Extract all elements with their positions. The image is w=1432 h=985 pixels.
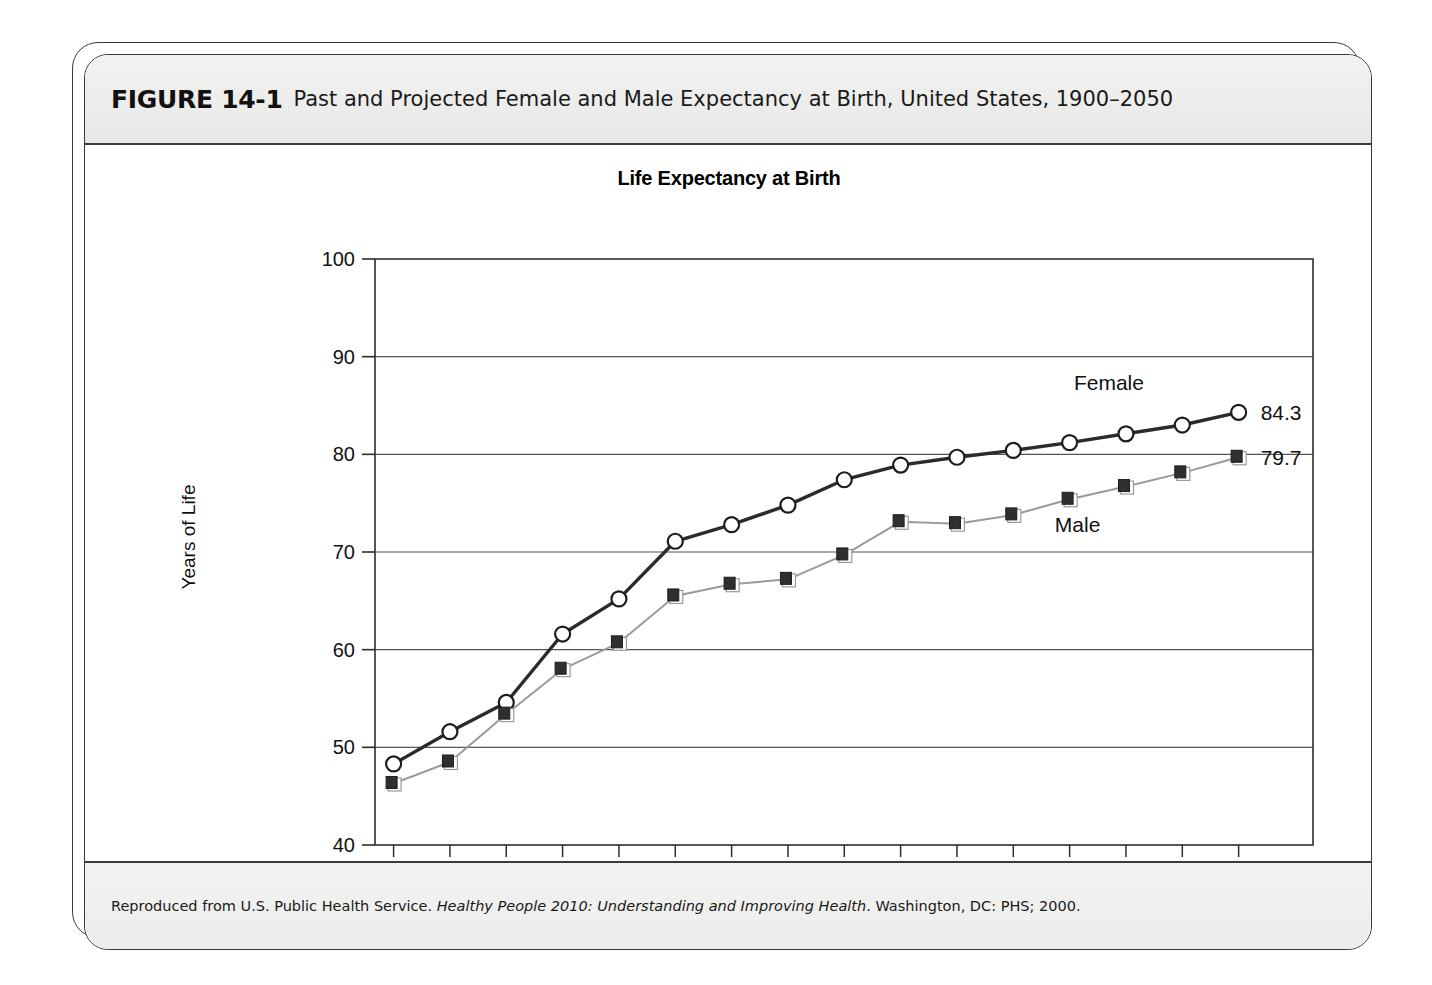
source-title: Healthy People 2010: Understanding and I… [437, 898, 867, 914]
data-point-female [668, 534, 683, 549]
data-point-male [1118, 480, 1129, 492]
data-point-male [555, 662, 566, 674]
y-tick-label: 60 [333, 639, 355, 661]
data-point-male [780, 572, 791, 584]
data-point-male [499, 707, 510, 719]
figure-caption: Past and Projected Female and Male Expec… [294, 87, 1174, 111]
data-point-female [386, 756, 401, 771]
data-point-male [1175, 466, 1186, 478]
data-point-female [780, 498, 795, 513]
data-point-female [1118, 426, 1133, 441]
data-point-male [1006, 508, 1017, 520]
figure-card: FIGURE 14-1 Past and Projected Female an… [84, 54, 1372, 950]
data-point-female [442, 724, 457, 739]
y-tick-label: 40 [333, 834, 355, 856]
source-prefix: Reproduced from U.S. Public Health Servi… [111, 898, 437, 914]
data-point-male [668, 589, 679, 601]
figure-number: FIGURE 14-1 [111, 85, 283, 114]
y-axis-ticks: 405060708090100 [322, 248, 375, 856]
series-label-female: Female [1074, 371, 1144, 394]
y-tick-label: 100 [322, 248, 355, 270]
data-point-female [837, 472, 852, 487]
data-point-female [1006, 443, 1021, 458]
data-point-female [724, 517, 739, 532]
data-point-female [1062, 435, 1077, 450]
data-point-female [1231, 405, 1246, 420]
figure-header: FIGURE 14-1 Past and Projected Female an… [85, 55, 1371, 145]
data-point-male [1231, 450, 1242, 462]
source-citation: Reproduced from U.S. Public Health Servi… [111, 898, 1081, 914]
end-value-female: 84.3 [1261, 401, 1302, 424]
line-chart-svg: 405060708090100 1900*1910*1920*193019401… [85, 145, 1372, 863]
data-point-male [724, 577, 735, 589]
y-tick-label: 70 [333, 541, 355, 563]
data-point-male [442, 755, 453, 767]
y-tick-label: 80 [333, 443, 355, 465]
end-value-male: 79.7 [1261, 446, 1302, 469]
series-label-male: Male [1055, 513, 1101, 536]
series-markers [386, 405, 1246, 791]
data-point-female [611, 591, 626, 606]
series-lines [394, 412, 1239, 783]
chart-area: Life Expectancy at Birth Years of Life 4… [85, 145, 1372, 863]
y-tick-label: 90 [333, 346, 355, 368]
data-point-female [893, 458, 908, 473]
data-point-female [1175, 418, 1190, 433]
data-point-female [949, 450, 964, 465]
data-point-male [386, 776, 397, 788]
data-point-male [893, 515, 904, 527]
data-point-female [555, 627, 570, 642]
data-point-male [611, 636, 622, 648]
data-point-male [837, 548, 848, 560]
data-point-male [949, 517, 960, 529]
figure-footer: Reproduced from U.S. Public Health Servi… [85, 861, 1371, 949]
source-suffix: . Washington, DC: PHS; 2000. [866, 898, 1080, 914]
y-tick-label: 50 [333, 736, 355, 758]
data-point-male [1062, 492, 1073, 504]
figure-page: FIGURE 14-1 Past and Projected Female an… [0, 0, 1432, 985]
